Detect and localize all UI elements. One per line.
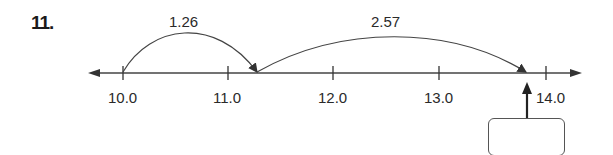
left-arrow-icon (88, 69, 100, 77)
tick-label-13: 13.0 (424, 89, 453, 106)
up-arrow-icon (522, 82, 532, 94)
jump-arc-2 (257, 37, 526, 72)
answer-box[interactable] (488, 118, 565, 155)
jump-label-2: 2.57 (371, 13, 400, 30)
jump-label-1: 1.26 (169, 13, 198, 30)
tick-label-14: 14.0 (536, 89, 565, 106)
right-arrow-icon (570, 69, 582, 77)
tick-label-12: 12.0 (318, 89, 347, 106)
axis-line (88, 69, 582, 77)
tick-label-10: 10.0 (108, 89, 137, 106)
tick-label-11: 11.0 (213, 89, 241, 106)
jump-arc-1 (123, 33, 257, 72)
